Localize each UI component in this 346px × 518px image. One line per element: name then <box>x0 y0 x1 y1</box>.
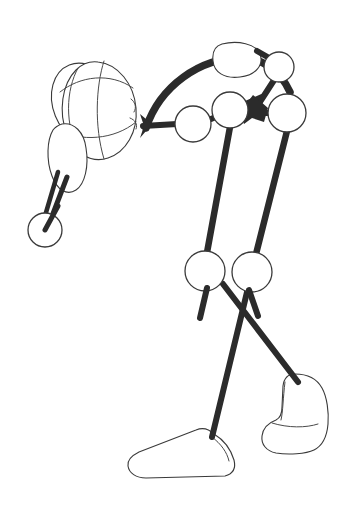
upper-back-joint <box>264 52 294 82</box>
scapula-ovoid <box>213 42 261 77</box>
hip-joint-left <box>185 251 225 291</box>
shoulder-joint-near <box>212 92 248 128</box>
shoulder-joint-far <box>268 94 306 132</box>
drawing-canvas: Mannequin Figure Study bending humanoid … <box>0 0 346 518</box>
neck-joint <box>175 106 211 142</box>
mannequin-figure <box>0 0 346 518</box>
hip-joint-right <box>232 252 272 292</box>
